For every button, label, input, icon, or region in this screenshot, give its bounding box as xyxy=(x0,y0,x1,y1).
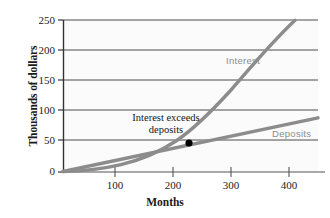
intersection-annotation-line1: Interest exceeds xyxy=(112,112,220,124)
intersection-annotation-line2: deposits xyxy=(112,124,220,136)
intersection-marker-icon xyxy=(185,139,192,146)
y-axis-ticks xyxy=(58,20,63,172)
series-label-interest: Interest xyxy=(226,55,260,66)
chart-figure: Thousands of dollars 250 200 150 100 50 … xyxy=(0,0,330,218)
series-label-deposits: Deposits xyxy=(272,128,311,139)
plot-area xyxy=(0,0,330,218)
plot-background xyxy=(63,20,318,172)
